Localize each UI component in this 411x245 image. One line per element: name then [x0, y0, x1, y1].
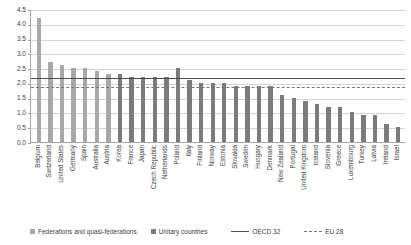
bar-slot [381, 9, 393, 142]
bar-slot [358, 9, 370, 142]
bar-slot [184, 9, 196, 142]
bar [350, 112, 354, 142]
y-tick-label: 2.5 [2, 66, 26, 73]
bar [326, 107, 330, 142]
x-label-slot: France [125, 145, 137, 217]
y-tick-label: 0.0 [2, 140, 26, 147]
y-tick-label: 0.5 [2, 125, 26, 132]
x-axis-label: United States [58, 145, 64, 183]
x-axis-label: Hungary [255, 145, 261, 169]
x-axis-label: Australia [93, 145, 99, 170]
x-label-slot: Germany [67, 145, 79, 217]
bar-slot [323, 9, 335, 142]
x-label-slot: Spain [78, 145, 90, 217]
x-axis-label: Germany [69, 145, 75, 171]
reference-line-oecd-32 [31, 78, 405, 79]
y-tick-label: 2.0 [2, 80, 26, 87]
bar [361, 115, 365, 142]
legend-item-unitary[interactable]: Unitary countries [151, 228, 208, 235]
x-axis-label: Italy [185, 145, 191, 157]
bar-slot [149, 9, 161, 142]
x-label-slot: New Zealand [275, 145, 287, 217]
y-tick-label: 4.0 [2, 21, 26, 28]
x-axis-label: Slovakia [232, 145, 238, 169]
x-label-slot: Poland [171, 145, 183, 217]
plot-area [30, 10, 405, 143]
bar [396, 127, 400, 142]
x-axis-label: Korea [116, 145, 122, 162]
x-axis-label: Estonia [220, 145, 226, 166]
bar-slot [265, 9, 277, 142]
bar [211, 83, 215, 142]
bar-slot [219, 9, 231, 142]
y-tick-label: 3.0 [2, 51, 26, 58]
bar-slot [369, 9, 381, 142]
bar-slot [346, 9, 358, 142]
chart-container: 0.00.51.01.52.02.53.03.54.04.5 BelgiumSw… [0, 0, 411, 245]
x-label-slot: Italy [183, 145, 195, 217]
bar-slot [300, 9, 312, 142]
y-tick-mark [28, 143, 31, 144]
bar [187, 80, 191, 142]
y-tick-label: 1.5 [2, 95, 26, 102]
legend-item-federation[interactable]: Federations and quasi-federations [30, 228, 137, 235]
bar [71, 68, 75, 142]
x-axis-label: United Kingdom [301, 145, 307, 190]
x-axis-label: Turkey [359, 145, 365, 164]
x-label-slot: Japan [136, 145, 148, 217]
x-label-slot: Norway [206, 145, 218, 217]
bar-slot [334, 9, 346, 142]
x-axis-category-labels: BelgiumSwitzerlandUnited StatesGermanySp… [30, 145, 405, 217]
legend-label: Federations and quasi-federations [38, 228, 137, 235]
x-label-slot: Slovakia [229, 145, 241, 217]
bar [199, 83, 203, 142]
legend-item-solid-line[interactable]: OECD 32 [231, 228, 280, 235]
x-label-slot: Netherlands [160, 145, 172, 217]
x-label-slot: Denmark [264, 145, 276, 217]
bar-slot [56, 9, 68, 142]
bar [95, 71, 99, 142]
legend-item-dashed-line[interactable]: EU 28 [304, 228, 343, 235]
bar [268, 86, 272, 142]
bar-slot [230, 9, 242, 142]
x-label-slot: Israel [391, 145, 403, 217]
y-tick-label: 3.5 [2, 36, 26, 43]
y-tick-label: 1.0 [2, 110, 26, 117]
bar [303, 101, 307, 142]
x-axis-label: Sweden [243, 145, 249, 168]
x-label-slot: Czech Republic [148, 145, 160, 217]
x-label-slot: Estonia [218, 145, 230, 217]
legend-line-dashed [304, 231, 322, 232]
chart-legend: Federations and quasi-federationsUnitary… [30, 224, 405, 238]
x-axis-label: Japan [139, 145, 145, 162]
x-axis-label: Finland [197, 145, 203, 166]
x-label-slot: Sweden [241, 145, 253, 217]
bar [176, 68, 180, 142]
bar-slot [253, 9, 265, 142]
x-axis-label: Belgium [35, 145, 41, 168]
x-axis-label: Greece [336, 145, 342, 166]
x-label-slot: Switzerland [44, 145, 56, 217]
x-axis-label: Austria [104, 145, 110, 165]
bar [292, 98, 296, 142]
x-label-slot: Hungary [252, 145, 264, 217]
legend-label: EU 28 [325, 228, 343, 235]
reference-line-eu-28 [31, 87, 405, 88]
bar-slot [79, 9, 91, 142]
bar-slot [276, 9, 288, 142]
x-label-slot: United Kingdom [299, 145, 311, 217]
x-label-slot: Austria [102, 145, 114, 217]
bar [83, 68, 87, 142]
bar-slot [207, 9, 219, 142]
x-axis-label: Iceland [313, 145, 319, 165]
bar [48, 62, 52, 142]
x-label-slot: Iceland [310, 145, 322, 217]
x-label-slot: Slovenia [322, 145, 334, 217]
bar-slot [137, 9, 149, 142]
x-axis-label: Switzerland [46, 145, 52, 178]
x-axis-label: Israel [394, 145, 400, 160]
x-label-slot: Australia [90, 145, 102, 217]
legend-swatch-federation [30, 229, 35, 234]
x-label-slot: Greece [333, 145, 345, 217]
x-axis-label: Spain [81, 145, 87, 161]
